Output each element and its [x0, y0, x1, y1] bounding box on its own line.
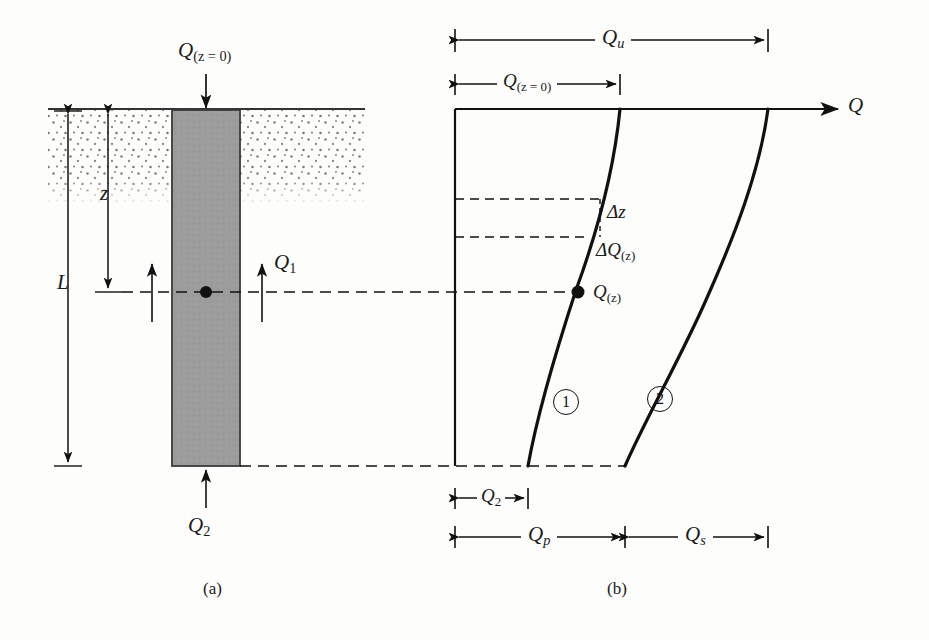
- label-top-load: Q(z = 0): [178, 40, 231, 63]
- label-delta-qz: ΔQ(z): [596, 240, 635, 263]
- label-point-load: Q2: [188, 515, 210, 538]
- subcaption-a: (a): [203, 580, 222, 597]
- subcaption-b: (b): [607, 580, 627, 597]
- load-curve-2: [625, 109, 768, 466]
- label-qp-dim: Qp: [521, 524, 557, 547]
- label-qu: Qu: [595, 27, 631, 50]
- curve-label-1: 1: [553, 389, 579, 415]
- label-qz: Q(z): [593, 282, 621, 305]
- label-depth-z: z: [100, 183, 108, 204]
- figure-canvas: [0, 0, 929, 640]
- label-q2-dim: Q2: [477, 486, 505, 509]
- label-qz0: Q(z = 0): [497, 71, 557, 94]
- load-curve-marker-dot: [572, 286, 585, 299]
- label-skin-friction: Q1: [274, 252, 296, 275]
- label-q-axis: Q: [848, 95, 863, 116]
- curve-label-2: 2: [647, 386, 673, 412]
- figure-root: Q(z = 0) z L Q1 Q2 Qu Q(z = 0) Q Δz ΔQ(z…: [0, 0, 929, 640]
- label-qs-dim: Qs: [678, 524, 713, 547]
- label-length-L: L: [57, 272, 69, 293]
- label-delta-z: Δz: [607, 202, 626, 221]
